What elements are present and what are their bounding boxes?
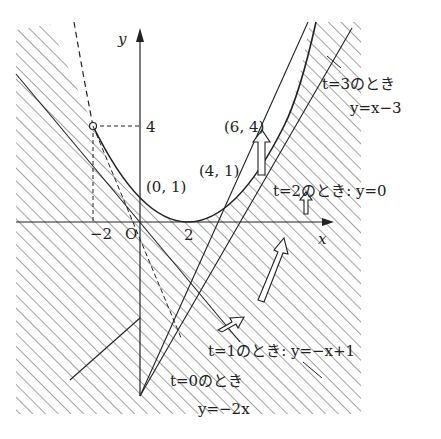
- annotation-t3-line1: t=3のとき: [322, 75, 395, 93]
- annotation-t2: t=2のとき: y=0: [273, 182, 387, 200]
- annotation-t3-line2: y=x−3: [349, 99, 402, 117]
- tick-x-2: 2: [184, 226, 194, 244]
- annotation-t0-line1: t=0のとき: [170, 372, 243, 390]
- point-label-0-1: (0, 1): [146, 178, 186, 196]
- diagram-canvas: y x O −2 2 4 (0, 1) (4, 1) (6, 4) t=3のとき…: [0, 0, 441, 439]
- annotation-t1: t=1のとき: y=−x+1: [208, 342, 355, 360]
- point-label-6-4: (6, 4): [224, 118, 264, 136]
- point-label-4-1: (4, 1): [199, 162, 239, 180]
- y-axis-label: y: [117, 30, 127, 48]
- x-axis-label: x: [318, 230, 327, 248]
- origin-label: O: [125, 225, 137, 243]
- y-axis-arrow-icon: [136, 28, 144, 42]
- tick-y-4: 4: [146, 118, 156, 136]
- tick-x-neg2: −2: [90, 225, 112, 243]
- annotation-t0-line2: y=−2x: [197, 400, 250, 418]
